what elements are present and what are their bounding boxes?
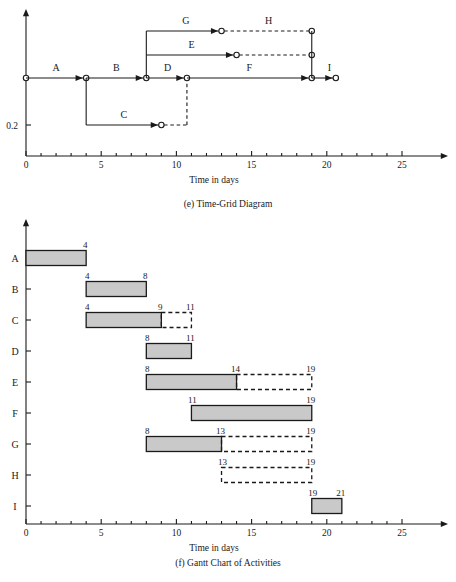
panel-e-node-end	[333, 75, 338, 80]
panel-e-activity-B-label: B	[113, 62, 120, 73]
panel-f-x-tick-label: 5	[99, 528, 104, 538]
panel-e-activity-G-arrow	[211, 28, 218, 34]
panel-f-x-tick-label: 20	[322, 528, 332, 538]
panel-e-node-E-end	[234, 52, 239, 57]
panel-e-activity-A-arrow	[76, 75, 83, 81]
panel-f-start-label-H: 13	[218, 457, 228, 467]
panel-f-x-tick-label: 25	[397, 528, 407, 538]
panel-f-row-label-I: I	[13, 501, 16, 512]
panel-f-caption: (f) Gantt Chart of Activities	[175, 558, 281, 569]
panel-e-activity-E-arrow	[226, 52, 233, 58]
panel-f-row-label-E: E	[12, 377, 18, 388]
panel-e-activity-A-label: A	[52, 62, 60, 73]
panel-e-node-G-end	[219, 28, 224, 33]
panel-f-end-label-B: 8	[143, 271, 148, 281]
panel-f-end-label-C: 9	[158, 302, 163, 312]
panel-f-x-tick-label: 10	[172, 528, 182, 538]
panel-e-x-tick-label: 10	[172, 160, 182, 170]
panel-f-x-tick-label: 15	[247, 528, 257, 538]
panel-e-axis-title: Time in days	[189, 175, 239, 185]
panel-f-bar-C	[86, 313, 161, 328]
panel-f-bar-A	[26, 251, 86, 266]
panel-e-caption: (e) Time-Grid Diagram	[184, 199, 273, 210]
panel-f-bar-G	[146, 437, 221, 452]
panel-e-x-tick-label: 5	[99, 160, 104, 170]
panel-e-activity-C-label: C	[120, 109, 127, 120]
panel-f-x-axis-arrow	[441, 521, 448, 527]
panel-f-row-label-A: A	[11, 253, 19, 264]
panel-f-axis-title: Time in days	[189, 543, 239, 553]
panel-f-x-tick-label: 0	[24, 528, 29, 538]
panel-f-float-E	[237, 375, 312, 390]
panel-f-start-label-D: 8	[145, 333, 150, 343]
panel-f-start-label-B: 4	[85, 271, 90, 281]
panel-f-bar-B	[86, 282, 146, 297]
panel-f-float-label-E: 19	[306, 364, 316, 374]
figure-container: 0510152025Time in days0.2ABDFICGHE(e) Ti…	[0, 0, 456, 582]
panel-f-float-C	[161, 313, 191, 328]
panel-f-start-label-F: 11	[188, 395, 197, 405]
panel-f-start-label-E: 8	[145, 364, 150, 374]
panel-e-node-C-end	[159, 122, 164, 127]
panel-f-row-label-G: G	[11, 439, 18, 450]
panel-f-bar-I	[312, 499, 342, 514]
panel-f-row-label-C: C	[12, 315, 19, 326]
panel-e-activity-E-label: E	[188, 39, 194, 50]
panel-e-x-axis-arrow	[441, 153, 448, 159]
panel-f-end-label-I: 21	[336, 488, 345, 498]
panel-e-x-tick-label: 20	[322, 160, 332, 170]
panel-e-y-tick-label: 0.2	[6, 121, 18, 131]
panel-f-start-label-G: 8	[145, 426, 150, 436]
panel-e-activity-B-arrow	[136, 75, 143, 81]
panel-f-end-label-A: 4	[83, 240, 88, 250]
panel-e-x-tick-label: 15	[247, 160, 257, 170]
panel-f-row-label-H: H	[11, 470, 18, 481]
panel-e-activity-F-arrow	[301, 75, 308, 81]
panel-f-end-label-D: 11	[186, 333, 195, 343]
panel-f-row-label-B: B	[12, 284, 19, 295]
panel-f-bar-E	[146, 375, 236, 390]
panel-e-activity-D-label: D	[164, 62, 171, 73]
panel-e-activity-H-label: H	[265, 15, 272, 26]
panel-e-activity-C-arrow	[151, 122, 158, 128]
panel-e-activity-F-label: F	[247, 62, 253, 73]
panel-f-float-G	[222, 437, 312, 452]
panel-f-float-label-C: 11	[186, 302, 195, 312]
panel-e-x-tick-label: 0	[24, 160, 29, 170]
panel-e-activity-G-label: G	[182, 15, 189, 26]
panel-f-start-label-I: 19	[308, 488, 318, 498]
panel-f-end-label-G: 13	[216, 426, 226, 436]
panel-f-float-label-G: 19	[306, 426, 316, 436]
panel-f-bar-H	[222, 468, 312, 483]
figure-svg: 0510152025Time in days0.2ABDFICGHE(e) Ti…	[0, 0, 456, 582]
panel-e-activity-I-label: I	[328, 62, 331, 73]
panel-f-end-label-H: 19	[306, 457, 316, 467]
panel-e-x-tick-label: 25	[397, 160, 407, 170]
panel-e-activity-D-arrow	[176, 75, 183, 81]
panel-f-start-label-C: 4	[85, 302, 90, 312]
panel-f-end-label-F: 19	[306, 395, 316, 405]
panel-e-activity-I-arrow	[325, 75, 332, 81]
panel-e-y-axis-arrow	[23, 9, 29, 16]
panel-f-bar-D	[146, 344, 191, 359]
panel-f-end-label-E: 14	[231, 364, 241, 374]
panel-f-row-label-F: F	[12, 408, 18, 419]
panel-f-row-label-D: D	[11, 346, 18, 357]
panel-f-bar-F	[191, 406, 311, 421]
panel-f-y-axis-arrow	[23, 219, 29, 226]
